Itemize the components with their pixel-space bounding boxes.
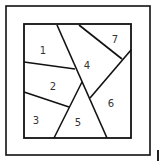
outer-frame: [6, 6, 150, 155]
region-label-2: 2: [50, 81, 56, 92]
edge-mark: [157, 150, 159, 161]
region-label-5: 5: [75, 117, 81, 128]
region-label-1: 1: [40, 45, 46, 56]
partition-line-4: [54, 82, 82, 138]
region-label-7: 7: [112, 34, 118, 45]
region-label-3: 3: [33, 115, 39, 126]
partition-diagram: 1 2 3 4 5 6 7: [0, 0, 160, 161]
partition-line-3: [24, 92, 69, 107]
region-label-4: 4: [84, 60, 90, 71]
partition-line-2: [24, 62, 75, 69]
region-label-6: 6: [108, 98, 114, 109]
partition-line-6: [90, 50, 131, 98]
